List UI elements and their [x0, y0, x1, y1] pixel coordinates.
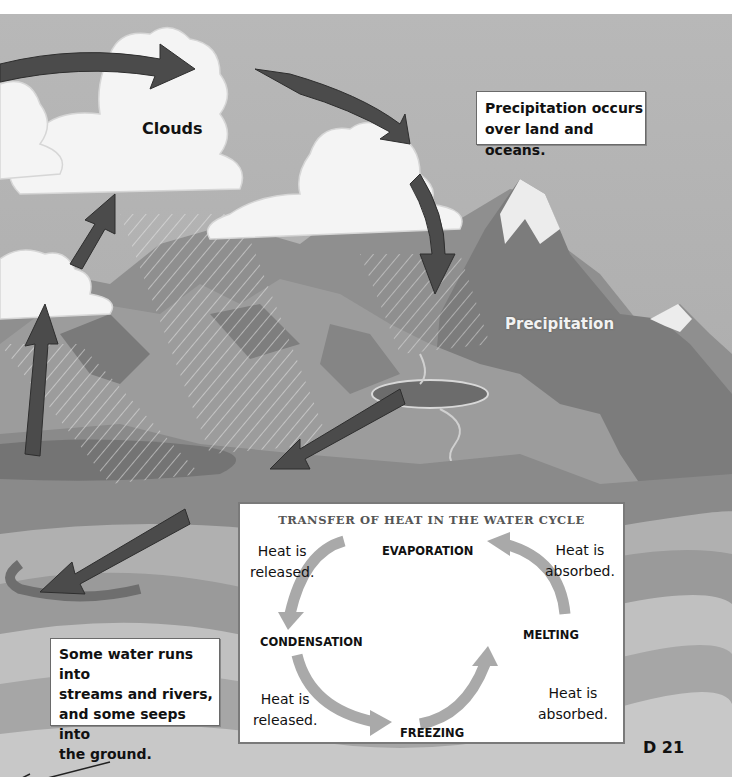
heat-note-line: released.	[253, 710, 317, 731]
page-number: D 21	[643, 738, 684, 757]
callout-line: Some water runs into	[59, 644, 219, 684]
heat-note-top-left: Heat is released.	[250, 541, 314, 583]
heat-note-line: Heat is	[545, 540, 615, 561]
callout-line: over land and oceans.	[485, 119, 645, 161]
phase-melting: MELTING	[523, 628, 579, 642]
heat-note-line: Heat is	[250, 541, 314, 562]
heat-note-line: Heat is	[538, 683, 608, 704]
heat-note-line: absorbed.	[538, 704, 608, 725]
heat-note-line: Heat is	[253, 689, 317, 710]
heat-panel-title: TRANSFER OF HEAT IN THE WATER CYCLE	[240, 513, 623, 527]
heat-transfer-panel: TRANSFER OF HEAT IN THE WATER CYCLE EVAP…	[238, 502, 625, 744]
callout-line: and some seeps into	[59, 704, 219, 744]
heat-note-line: absorbed.	[545, 561, 615, 582]
heat-note-bottom-left: Heat is released.	[253, 689, 317, 731]
precipitation-label: Precipitation	[505, 315, 614, 333]
precipitation-callout: Precipitation occurs over land and ocean…	[476, 91, 646, 145]
clouds-label: Clouds	[142, 119, 203, 138]
phase-condensation: CONDENSATION	[260, 635, 363, 649]
phase-evaporation: EVAPORATION	[382, 544, 473, 558]
phase-freezing: FREEZING	[400, 726, 464, 740]
heat-note-bottom-right: Heat is absorbed.	[538, 683, 608, 725]
runoff-callout: Some water runs into streams and rivers,…	[50, 638, 220, 726]
heat-note-line: released.	[250, 562, 314, 583]
heat-note-top-right: Heat is absorbed.	[545, 540, 615, 582]
callout-line: the ground.	[59, 744, 219, 764]
callout-line: streams and rivers,	[59, 684, 219, 704]
callout-line: Precipitation occurs	[485, 98, 645, 119]
